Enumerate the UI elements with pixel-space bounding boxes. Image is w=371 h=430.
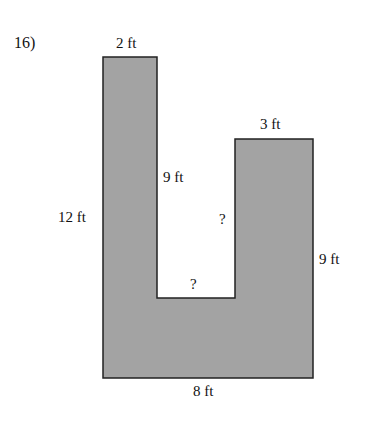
figure-canvas: 16) 2 ft 9 ft 12 ft ? ? 3 ft 9 ft 8 ft [0, 0, 371, 430]
problem-number: 16) [14, 35, 35, 51]
u-shaped-polygon [103, 57, 313, 378]
label-outer-right-height: 9 ft [319, 252, 339, 267]
label-top-right-width: 3 ft [260, 117, 280, 132]
label-inner-right-height-unknown: ? [219, 212, 226, 227]
label-notch-width-unknown: ? [190, 277, 197, 292]
label-top-left-width: 2 ft [116, 36, 136, 51]
label-inner-left-height: 9 ft [163, 170, 183, 185]
label-outer-left-height: 12 ft [58, 210, 86, 225]
u-shape-figure [0, 0, 371, 430]
label-bottom-width: 8 ft [193, 384, 213, 399]
